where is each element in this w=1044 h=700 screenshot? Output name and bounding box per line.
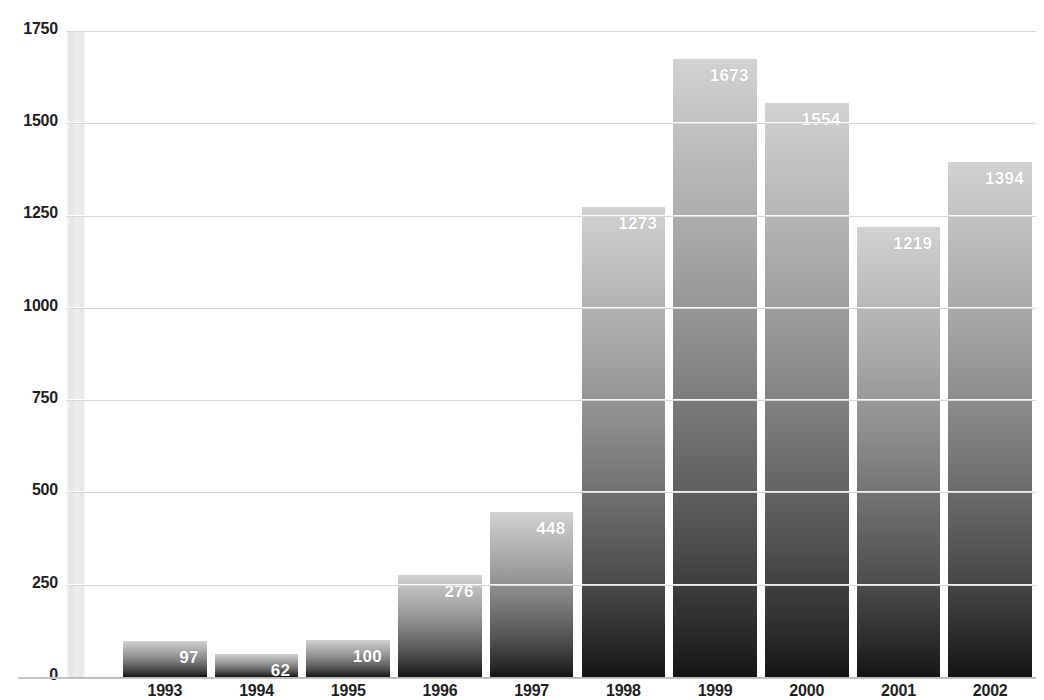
y-tick-500: 500 xyxy=(2,481,58,499)
gridline-x-9 xyxy=(944,31,945,677)
bar-value-label-1994: 62 xyxy=(271,661,291,681)
gridline-y-1250 xyxy=(66,216,1036,217)
bar-1996[interactable]: 276 xyxy=(398,575,482,677)
bar-value-label-1993: 97 xyxy=(179,648,199,668)
x-tick-2001: 2001 xyxy=(853,682,943,700)
y-tick-250: 250 xyxy=(2,574,58,592)
bar-1994[interactable]: 62 xyxy=(215,654,299,677)
gridline-y-1500 xyxy=(66,123,1036,124)
gridline-y-500 xyxy=(66,492,1036,493)
bar-1997[interactable]: 448 xyxy=(490,512,574,677)
bar-2001[interactable]: 1219 xyxy=(857,227,941,677)
bar-value-label-2000: 1554 xyxy=(802,110,841,130)
x-tick-1994: 1994 xyxy=(212,682,302,700)
bar-chart: 1750 1500 1250 1000 750 500 250 0 976210… xyxy=(0,0,1044,700)
gridline-y-750 xyxy=(66,400,1036,401)
decorative-band xyxy=(66,31,86,677)
x-tick-1999: 1999 xyxy=(670,682,760,700)
bar-value-label-2002: 1394 xyxy=(985,169,1024,189)
gridline-x-8 xyxy=(853,31,854,677)
gridline-x-6 xyxy=(669,31,670,677)
x-tick-1996: 1996 xyxy=(395,682,485,700)
bar-2002[interactable]: 1394 xyxy=(948,162,1032,677)
y-tick-1250: 1250 xyxy=(2,204,58,222)
gridline-x-2 xyxy=(302,31,303,677)
y-tick-750: 750 xyxy=(2,389,58,407)
gridline-y-1750 xyxy=(66,31,1036,32)
x-tick-1993: 1993 xyxy=(120,682,210,700)
bar-value-label-1999: 1673 xyxy=(710,66,749,86)
x-tick-2000: 2000 xyxy=(762,682,852,700)
x-tick-1995: 1995 xyxy=(303,682,393,700)
bar-value-label-2001: 1219 xyxy=(893,234,932,254)
gridline-x-1 xyxy=(211,31,212,677)
gridline-y-250 xyxy=(66,585,1036,586)
y-tick-0: 0 xyxy=(2,666,58,684)
bar-value-label-1998: 1273 xyxy=(618,214,657,234)
bar-value-label-1995: 100 xyxy=(353,647,382,667)
gridline-x-0 xyxy=(119,31,120,677)
x-tick-1998: 1998 xyxy=(578,682,668,700)
gridline-y-1000 xyxy=(66,308,1036,309)
bar-1993[interactable]: 97 xyxy=(123,641,207,677)
y-tick-1750: 1750 xyxy=(2,20,58,38)
plot-area: 976210027644812731673155412191394 xyxy=(66,31,1036,677)
gridline-x-4 xyxy=(486,31,487,677)
y-tick-1000: 1000 xyxy=(2,297,58,315)
y-tick-1500: 1500 xyxy=(2,112,58,130)
bar-1995[interactable]: 100 xyxy=(306,640,390,677)
gridline-x-5 xyxy=(578,31,579,677)
x-tick-2002: 2002 xyxy=(945,682,1035,700)
bar-2000[interactable]: 1554 xyxy=(765,103,849,677)
gridline-x-10 xyxy=(1036,31,1037,677)
x-tick-1997: 1997 xyxy=(487,682,577,700)
gridline-x-3 xyxy=(394,31,395,677)
gridline-y-0 xyxy=(66,677,1036,678)
gridline-x-7 xyxy=(761,31,762,677)
bar-1998[interactable]: 1273 xyxy=(582,207,666,677)
bar-value-label-1997: 448 xyxy=(536,519,565,539)
